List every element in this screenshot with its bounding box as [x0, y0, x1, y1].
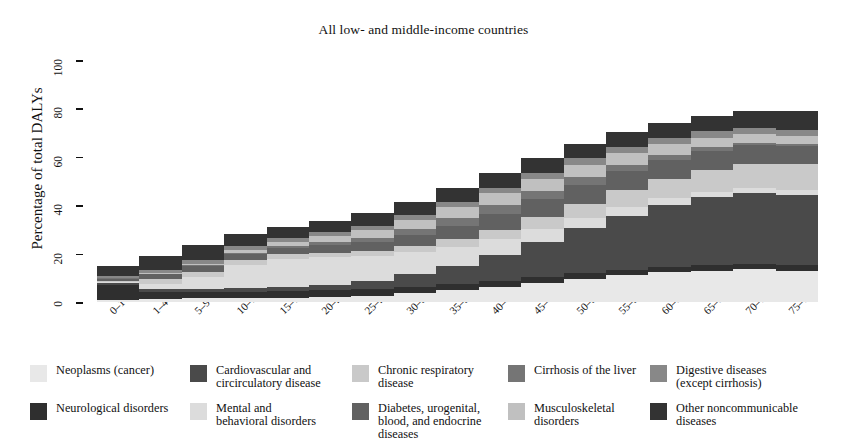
y-tick-mark-60 [76, 157, 83, 159]
legend-swatch [30, 365, 47, 382]
legend-item[interactable]: Cirrhosis of the liver [508, 364, 636, 382]
legend-item-label: Mental and behavioral disorders [216, 402, 316, 428]
y-tick-mark-80 [76, 108, 83, 110]
stacked-area-plot [97, 60, 818, 302]
legend-item-label: Cirrhosis of the liver [534, 364, 636, 377]
figure: All low- and middle-income countries Per… [0, 0, 847, 446]
legend-swatch [650, 403, 667, 420]
y-tick-label-100: 100 [52, 59, 64, 89]
legend-item-label: Neoplasms (cancer) [56, 364, 154, 377]
chart-title: All low- and middle-income countries [0, 22, 847, 38]
legend-swatch [508, 365, 525, 382]
legend-swatch [352, 403, 369, 420]
legend-swatch [650, 365, 667, 382]
legend-item[interactable]: Neoplasms (cancer) [30, 364, 154, 382]
legend-item[interactable]: Cardiovascular and circirculatory diseas… [190, 364, 321, 390]
legend-item[interactable]: Mental and behavioral disorders [190, 402, 316, 428]
legend-item[interactable]: Other noncommunicable diseases [650, 402, 798, 428]
legend-item-label: Chronic respiratory disease [378, 364, 474, 390]
y-tick-label-40: 40 [52, 204, 64, 234]
legend-item[interactable]: Musculoskeletal disorders [508, 402, 615, 428]
legend-item[interactable]: Digestive diseases (except cirrhosis) [650, 364, 767, 390]
legend-item[interactable]: Neurological disorders [30, 402, 168, 420]
y-axis-label: Percentage of total DALYs [29, 44, 46, 294]
y-tick-label-60: 60 [52, 156, 64, 186]
legend-item-label: Diabetes, urogenital, blood, and endocri… [378, 402, 481, 442]
chart-legend: Neoplasms (cancer)Cardiovascular and cir… [0, 360, 847, 446]
legend-item[interactable]: Chronic respiratory disease [352, 364, 474, 390]
y-tick-mark-0 [76, 302, 83, 304]
legend-item-label: Musculoskeletal disorders [534, 402, 615, 428]
legend-swatch [190, 365, 207, 382]
legend-swatch [352, 365, 369, 382]
y-tick-label-20: 20 [52, 253, 64, 283]
y-tick-mark-40 [76, 205, 83, 207]
y-tick-label-0: 0 [52, 301, 64, 331]
legend-swatch [508, 403, 525, 420]
legend-item[interactable]: Diabetes, urogenital, blood, and endocri… [352, 402, 481, 442]
legend-item-label: Cardiovascular and circirculatory diseas… [216, 364, 321, 390]
y-tick-mark-100 [76, 60, 83, 62]
legend-item-label: Neurological disorders [56, 402, 168, 415]
legend-item-label: Other noncommunicable diseases [676, 402, 798, 428]
legend-swatch [190, 403, 207, 420]
y-tick-label-80: 80 [52, 107, 64, 137]
legend-swatch [30, 403, 47, 420]
plot-canvas [97, 60, 818, 302]
y-tick-mark-20 [76, 254, 83, 256]
legend-item-label: Digestive diseases (except cirrhosis) [676, 364, 767, 390]
